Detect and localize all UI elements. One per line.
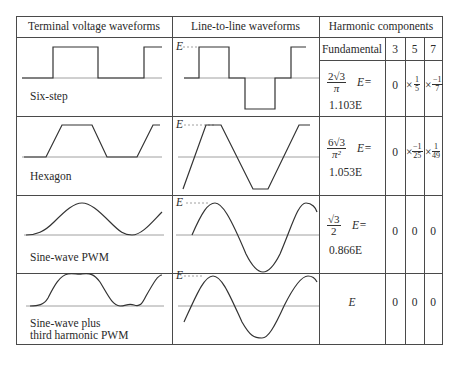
e-label-row1: E: [176, 40, 183, 53]
h5-frac-row1: 1 5: [414, 76, 420, 93]
e-label-row3: E: [176, 196, 183, 209]
h3-row1: 0: [385, 79, 405, 92]
sine-third-terminal-wave: [30, 274, 162, 306]
fundamental-suffix-row2: E=: [357, 142, 372, 155]
six-step-terminal-wave: [22, 47, 162, 78]
sine-pwm-terminal-wave: [26, 203, 162, 235]
h3-row3: 0: [385, 225, 405, 238]
fundamental-value-row3: 0.866E: [329, 244, 362, 257]
sine-pwm-line-wave: [192, 203, 317, 272]
h5-row4: 0: [405, 296, 424, 309]
fundamental-value-row2: 1.053E: [329, 166, 362, 179]
hexagon-terminal-wave: [24, 125, 160, 157]
fundamental-expr-row2: 6√3 π²: [327, 137, 346, 160]
fundamental-value-row1: 1.103E: [329, 99, 362, 112]
h7-row4: 0: [424, 296, 442, 309]
fundamental-value-row4: E: [319, 296, 385, 309]
h7-prefix-row1: ×: [425, 79, 432, 92]
h7-frac-row2: 1 49: [432, 143, 440, 160]
h5-prefix-row1: ×: [406, 79, 413, 92]
e-label-row2: E: [176, 118, 183, 131]
h5-row3: 0: [405, 225, 424, 238]
sine-third-line-wave: [184, 276, 317, 338]
h5-frac-row2: −1 25: [412, 143, 423, 160]
h7-frac-row1: −1 7: [432, 76, 443, 93]
h7-prefix-row2: ×: [425, 146, 432, 159]
harmonic-comparison-table: Terminal voltage waveforms Line-to-line …: [16, 16, 443, 345]
fundamental-suffix-row3: E=: [352, 219, 367, 232]
h7-row3: 0: [424, 225, 442, 238]
fundamental-suffix-row1: E=: [357, 76, 372, 89]
fundamental-expr-row3: √3 2: [327, 214, 341, 237]
e-label-row4: E: [176, 269, 183, 282]
fundamental-expr-row1: 2√3 π: [327, 71, 346, 94]
h3-row4: 0: [385, 296, 405, 309]
h3-row2: 0: [385, 146, 405, 159]
